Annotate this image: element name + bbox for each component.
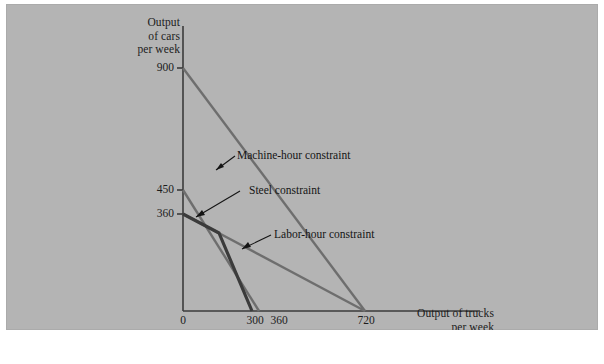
y-tick-label-360: 360 [128,207,174,220]
steel-line [183,190,259,311]
annotation-machine-hour-constraint: Machine-hour constraint [237,149,350,162]
x-tick-label-0: 0 [163,314,203,327]
x-tick-label-720: 720 [346,314,386,327]
y-tick-label-450: 450 [128,183,174,196]
annotation-arrow-labor-hour [242,235,271,249]
annotation-steel-constraint: Steel constraint [249,184,320,197]
x-tick-label-360: 360 [259,314,299,327]
page-footer-strip [0,330,604,364]
annotation-labor-hour-constraint: Labor-hour constraint [274,228,374,241]
figure-panel: Output of cars per week Output of trucks… [6,4,598,330]
y-tick-marks [177,68,183,214]
y-tick-label-900: 900 [128,61,174,74]
annotation-arrow-steel [196,191,240,217]
binding-frontier [183,214,252,311]
y-axis-title: Output of cars per week [80,16,180,57]
annotation-arrow-machine-hour [216,156,235,170]
figure-page: Output of cars per week Output of trucks… [0,0,604,364]
